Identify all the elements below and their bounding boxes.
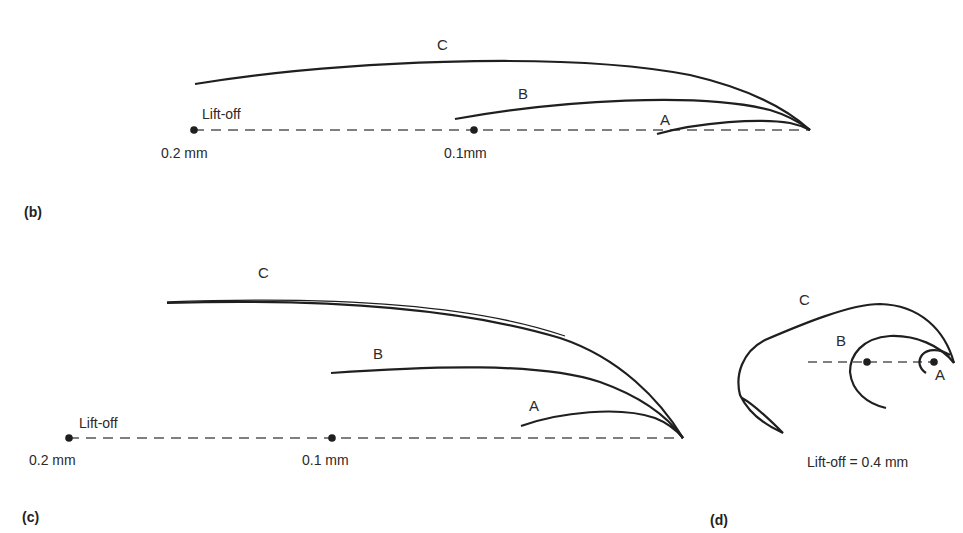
panel-b-label-a: A bbox=[660, 112, 670, 127]
panel-c-curve-a bbox=[521, 412, 683, 438]
panel-b-curve-c bbox=[195, 61, 810, 130]
panel-d-label-b: B bbox=[836, 333, 846, 348]
panel-d-dot-b bbox=[863, 358, 871, 366]
panel-d-dot-a bbox=[930, 358, 938, 366]
panel-b-liftoff-label: Lift-off bbox=[202, 107, 241, 121]
panel-d-id: (d) bbox=[710, 513, 728, 527]
panel-b-label-b: B bbox=[518, 86, 528, 101]
panel-c-dot-0.2mm bbox=[65, 434, 73, 442]
panel-b-id: (b) bbox=[24, 205, 42, 219]
panel-d-label-a: A bbox=[935, 367, 945, 382]
panel-c-label-c: C bbox=[258, 265, 269, 280]
panel-c-liftoff-label: Lift-off bbox=[79, 416, 118, 430]
panel-c-graphic bbox=[65, 300, 683, 442]
panel-c-id: (c) bbox=[22, 510, 39, 524]
panel-c-label-a: A bbox=[529, 398, 539, 413]
panel-b-marker-near: 0.1mm bbox=[444, 146, 487, 160]
panel-b-label-c: C bbox=[437, 37, 448, 52]
panel-c-curve-c bbox=[167, 302, 683, 438]
panel-c-marker-near: 0.1 mm bbox=[302, 453, 349, 467]
panel-b-marker-far: 0.2 mm bbox=[161, 146, 208, 160]
panel-d-graphic bbox=[738, 304, 954, 433]
panel-c-dot-0.1mm bbox=[328, 434, 336, 442]
panel-c-label-b: B bbox=[373, 346, 383, 361]
panel-d-caption: Lift-off = 0.4 mm bbox=[807, 455, 908, 469]
panel-c-marker-far: 0.2 mm bbox=[29, 453, 76, 467]
panel-b-dot-0.2mm bbox=[190, 126, 198, 134]
panel-d-label-c: C bbox=[799, 292, 810, 307]
panel-b-curve-a bbox=[657, 121, 810, 134]
panel-b-dot-0.1mm bbox=[470, 126, 478, 134]
panel-b-curve-b bbox=[455, 100, 810, 130]
panel-b-graphic bbox=[190, 61, 810, 134]
